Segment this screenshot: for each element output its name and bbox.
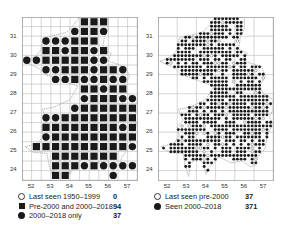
- legend-count: 0: [113, 192, 117, 202]
- filled-circle-icon: [154, 203, 161, 210]
- x-tick-label: 57: [120, 183, 134, 189]
- filled-square-icon: [19, 203, 25, 209]
- y-tick-label: 24: [146, 166, 153, 172]
- filled-circle-icon: [18, 212, 25, 219]
- legend-item-2000-2018-only: 2000–2018 only 37: [18, 211, 121, 221]
- x-tick-label: 52: [24, 183, 38, 189]
- legend-count: 37: [113, 211, 121, 221]
- x-tick-label: 54: [62, 183, 76, 189]
- legend-label: 2000–2018 only: [29, 211, 113, 221]
- x-tick-label: 55: [82, 183, 96, 189]
- y-tick-label: 31: [146, 33, 153, 39]
- distribution-map-tetrad: [158, 17, 274, 181]
- y-tick-label: 31: [10, 33, 17, 39]
- legend-item-last-seen-pre-2000: Last seen pre-2000 37: [154, 192, 257, 202]
- x-tick-label: 53: [43, 183, 57, 189]
- x-tick-label: 54: [198, 183, 212, 189]
- y-tick-label: 27: [146, 109, 153, 115]
- legend-right: Last seen pre-2000 37 Seen 2000–2018 371: [154, 192, 257, 211]
- legend-item-last-seen: Last seen 1950–1999 0: [18, 192, 121, 202]
- y-tick-label: 30: [10, 52, 17, 58]
- y-tick-label: 27: [10, 109, 17, 115]
- x-tick-label: 57: [256, 183, 270, 189]
- x-tick-label: 56: [237, 183, 251, 189]
- x-tick-label: 52: [160, 183, 174, 189]
- y-tick-label: 28: [10, 90, 17, 96]
- y-tick-label: 29: [146, 71, 153, 77]
- y-tick-label: 25: [10, 147, 17, 153]
- legend-label: Last seen pre-2000: [165, 192, 245, 202]
- legend-label: Last seen 1950–1999: [29, 192, 113, 202]
- x-tick-label: 53: [179, 183, 193, 189]
- legend-count: 94: [113, 202, 121, 212]
- legend-left: Last seen 1950–1999 0 Pre-2000 and 2000–…: [18, 192, 121, 221]
- legend-count: 371: [245, 202, 257, 212]
- legend-label: Seen 2000–2018: [165, 202, 245, 212]
- open-circle-icon: [18, 193, 25, 200]
- y-tick-label: 29: [10, 71, 17, 77]
- y-tick-label: 26: [10, 128, 17, 134]
- legend-item-seen-2000-2018: Seen 2000–2018 371: [154, 202, 257, 212]
- y-tick-label: 28: [146, 90, 153, 96]
- map-grid-tetrad: [158, 17, 274, 181]
- legend-item-pre-and-post-2000: Pre-2000 and 2000–2018 94: [18, 202, 121, 212]
- x-tick-label: 55: [218, 183, 232, 189]
- y-tick-label: 26: [146, 128, 153, 134]
- legend-count: 37: [245, 192, 253, 202]
- map-grid-10km: [22, 17, 138, 181]
- y-tick-label: 24: [10, 166, 17, 172]
- legend-label: Pre-2000 and 2000–2018: [29, 202, 113, 212]
- open-circle-icon: [154, 193, 161, 200]
- x-tick-label: 56: [101, 183, 115, 189]
- y-tick-label: 30: [146, 52, 153, 58]
- distribution-map-10km: [22, 17, 138, 181]
- y-tick-label: 25: [146, 147, 153, 153]
